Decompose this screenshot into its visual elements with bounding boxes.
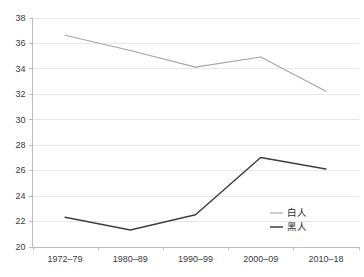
plot-background [0,0,364,277]
y-tick-label: 36 [15,38,25,48]
y-tick-label: 38 [15,13,25,23]
legend-label-1: 白人 [287,207,307,218]
x-tick-label: 2010–18 [308,254,343,264]
y-tick-label: 30 [15,115,25,125]
y-tick-label: 28 [15,140,25,150]
y-tick-label: 26 [15,165,25,175]
x-tick-label: 2000–09 [243,254,278,264]
y-tick-label: 32 [15,89,25,99]
legend-label-2: 黑人 [287,221,307,232]
y-tick-label: 34 [15,64,25,74]
y-tick-label: 24 [15,191,25,201]
y-tick-label: 20 [15,242,25,252]
x-tick-label: 1980–89 [113,254,148,264]
x-tick-label: 1972–79 [48,254,83,264]
line-chart-figure: 20222426283032343638 1972–791980–891990–… [0,0,364,277]
x-tick-label: 1990–99 [178,254,213,264]
chart-canvas: 20222426283032343638 1972–791980–891990–… [0,0,364,277]
y-tick-label: 22 [15,216,25,226]
